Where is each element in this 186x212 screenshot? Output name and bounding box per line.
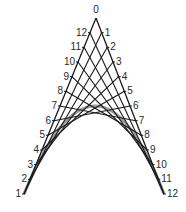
parabola-string-art-diagram: 0 121110987654321123456789101112 <box>0 0 186 212</box>
right-label-11: 11 <box>161 173 172 184</box>
right-label-9: 9 <box>150 144 156 155</box>
left-label-5: 5 <box>39 129 45 140</box>
left-label-2: 2 <box>21 173 27 184</box>
right-label-6: 6 <box>133 100 139 111</box>
chord-lines <box>24 33 164 194</box>
left-label-9: 9 <box>63 71 69 82</box>
left-label-6: 6 <box>45 115 51 126</box>
right-label-4: 4 <box>122 71 128 82</box>
right-label-5: 5 <box>127 85 133 96</box>
right-label-1: 1 <box>105 27 111 38</box>
right-label-8: 8 <box>144 129 150 140</box>
left-label-8: 8 <box>57 85 63 96</box>
left-label-7: 7 <box>51 100 57 111</box>
left-label-1: 1 <box>15 188 21 199</box>
apex-label: 0 <box>93 4 99 15</box>
left-label-10: 10 <box>64 56 76 67</box>
right-label-2: 2 <box>110 41 116 52</box>
right-label-10: 10 <box>156 159 168 170</box>
left-label-12: 12 <box>76 27 88 38</box>
right-label-3: 3 <box>116 56 122 67</box>
right-label-7: 7 <box>139 115 145 126</box>
chord-line-12 <box>90 33 164 194</box>
left-label-4: 4 <box>33 144 39 155</box>
left-label-11: 11 <box>71 41 82 52</box>
left-label-3: 3 <box>27 159 33 170</box>
right-label-12: 12 <box>167 188 179 199</box>
